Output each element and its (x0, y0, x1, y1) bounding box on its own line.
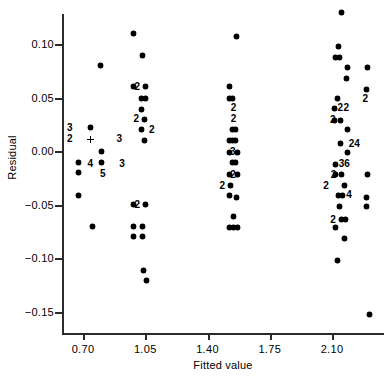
data-point-marker (345, 150, 350, 155)
x-tick-label: 2.10 (309, 344, 355, 355)
data-point-marker (235, 172, 240, 177)
data-point-marker (332, 106, 337, 111)
data-point-marker (365, 172, 370, 177)
y-tick-mark (55, 98, 63, 100)
y-tick-label: −0.15 (2, 307, 54, 318)
data-point-marker (139, 107, 144, 112)
overplot-count-label: 2 (135, 82, 141, 92)
y-axis-title: Residual (7, 118, 18, 198)
data-point-marker (90, 224, 95, 229)
data-point-marker (76, 170, 81, 175)
y-tick-mark (55, 205, 63, 207)
data-point-marker (337, 204, 342, 209)
data-point-marker (342, 183, 347, 188)
data-point-marker (140, 234, 145, 239)
data-point-marker (131, 31, 136, 36)
data-point-marker (99, 149, 104, 154)
data-point-marker (336, 44, 341, 49)
data-point-marker (233, 127, 238, 132)
data-point-marker (233, 138, 238, 143)
overplot-count-label: 5 (100, 169, 106, 179)
x-tick-label: 1.05 (122, 344, 168, 355)
y-tick-mark (55, 44, 63, 46)
data-point-marker (141, 268, 146, 273)
data-point-plus-marker (87, 136, 94, 143)
data-point-marker (335, 96, 340, 101)
data-point-marker (333, 162, 338, 167)
data-point-marker (139, 127, 144, 132)
overplot-count-label: 2 (362, 94, 368, 104)
overplot-count-label: 36 (339, 159, 350, 169)
overplot-count-label: 3 (67, 123, 73, 133)
x-tick-label: 1.40 (185, 344, 231, 355)
x-tick-label: 0.70 (60, 344, 106, 355)
data-point-marker (367, 312, 372, 317)
data-point-marker (143, 202, 148, 207)
data-point-marker (230, 96, 235, 101)
overplot-count-label: 2 (67, 134, 73, 144)
overplot-count-label: 2 (338, 103, 344, 113)
overplot-count-label: 2 (149, 125, 155, 135)
residual-vs-fitted-scatter-plot: 0.100.050.00−0.05−0.10−0.15 0.701.051.40… (0, 0, 388, 379)
data-point-marker (364, 195, 369, 200)
data-point-marker (140, 224, 145, 229)
data-point-marker (233, 160, 238, 165)
data-point-marker (227, 193, 232, 198)
data-point-marker (88, 125, 93, 130)
data-point-marker (231, 214, 236, 219)
overplot-count-label: 2 (220, 181, 226, 191)
y-tick-label: 0.05 (2, 93, 54, 104)
data-point-marker (345, 127, 350, 132)
overplot-count-label: 2 (231, 103, 237, 113)
overplot-count-label: 2 (323, 181, 329, 191)
x-tick-mark (208, 333, 210, 340)
data-point-marker (143, 84, 148, 89)
overplot-count-label: 24 (349, 139, 360, 149)
data-point-marker (140, 53, 145, 58)
overplot-count-label: 2 (135, 200, 141, 210)
overplot-count-label: 2 (134, 114, 140, 124)
data-point-marker (76, 160, 81, 165)
overplot-count-label: 3 (116, 134, 122, 144)
y-tick-label: 0.10 (2, 39, 54, 50)
data-point-marker (228, 183, 233, 188)
y-axis-line (62, 14, 64, 334)
data-point-marker (343, 217, 348, 222)
data-point-marker (364, 87, 369, 92)
data-point-marker (342, 236, 347, 241)
y-tick-mark (55, 151, 63, 153)
overplot-count-label: 4 (87, 159, 93, 169)
data-point-marker (131, 224, 136, 229)
data-point-marker (337, 55, 342, 60)
y-tick-label: −0.10 (2, 253, 54, 264)
y-tick-label: −0.05 (2, 200, 54, 211)
data-point-marker (340, 193, 345, 198)
data-point-marker (99, 160, 104, 165)
data-point-marker (338, 118, 343, 123)
data-point-marker (234, 195, 239, 200)
data-point-marker (144, 278, 149, 283)
data-point-marker (338, 141, 343, 146)
data-point-marker (98, 63, 103, 68)
data-point-marker (235, 225, 240, 230)
data-point-marker (335, 258, 340, 263)
data-point-marker (142, 117, 147, 122)
overplot-count-label: 2 (231, 114, 237, 124)
data-point-marker (345, 65, 350, 70)
data-point-marker (235, 150, 240, 155)
overplot-count-label: 4 (346, 190, 352, 200)
x-tick-mark (270, 333, 272, 340)
overplot-count-label: 3 (119, 159, 125, 169)
data-point-marker (365, 65, 370, 70)
data-point-marker (333, 225, 338, 230)
data-point-marker (227, 84, 232, 89)
y-tick-mark (55, 312, 63, 314)
overplot-count-label: 2 (344, 103, 350, 113)
overplot-count-label: 2 (330, 115, 336, 125)
overplot-count-label: 2 (331, 170, 337, 180)
x-tick-label: 1.75 (247, 344, 293, 355)
data-point-marker (76, 193, 81, 198)
y-tick-mark (55, 258, 63, 260)
data-point-marker (234, 34, 239, 39)
x-tick-mark (145, 333, 147, 340)
